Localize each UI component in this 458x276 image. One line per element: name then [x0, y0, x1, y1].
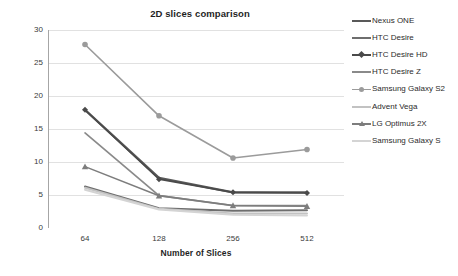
series-samsung-galaxy-s: [85, 190, 307, 216]
legend-swatch-icon: [352, 16, 371, 26]
legend-label: HTC Desire: [372, 34, 414, 42]
y-axis-title: FPS: [0, 95, 1, 110]
chart-container: 2D slices comparison FPS 051015202530 64…: [0, 0, 458, 276]
legend-item[interactable]: Samsung Galaxy S: [352, 132, 458, 149]
legend-label: Advent Vega: [372, 103, 417, 111]
data-point-marker: [304, 147, 310, 153]
legend-swatch-icon: [352, 136, 371, 146]
x-tick-label: 64: [65, 234, 105, 243]
legend-item[interactable]: HTC Desire HD: [352, 46, 458, 63]
legend-item[interactable]: HTC Desire Z: [352, 64, 458, 81]
legend-label: HTC Desire Z: [372, 68, 421, 76]
data-point-marker: [230, 155, 236, 161]
y-tick-label: 30: [21, 25, 43, 34]
legend-marker-icon: [358, 51, 365, 58]
chart-title: 2D slices comparison: [60, 8, 340, 19]
y-tick-label: 5: [21, 190, 43, 199]
legend-swatch-icon: [352, 84, 371, 94]
legend-item[interactable]: Nexus ONE: [352, 12, 458, 29]
series-htc-desire-hd: [82, 107, 310, 196]
legend-marker-icon: [359, 87, 364, 92]
y-tick-label: 20: [21, 91, 43, 100]
legend-item[interactable]: HTC Desire: [352, 29, 458, 46]
y-tick-label: 10: [21, 157, 43, 166]
legend-label: HTC Desire HD: [372, 51, 428, 59]
series-line: [85, 190, 307, 216]
x-axis-title: Number of Slices: [48, 248, 344, 258]
plot-area: [48, 30, 344, 228]
legend-swatch-icon: [352, 50, 371, 60]
x-tick-label: 256: [213, 234, 253, 243]
legend-label: Nexus ONE: [372, 17, 414, 25]
legend-item[interactable]: Samsung Galaxy S2: [352, 81, 458, 98]
x-tick-label: 512: [287, 234, 327, 243]
y-tick-label: 15: [21, 124, 43, 133]
data-point-marker: [82, 42, 88, 48]
series-samsung-galaxy-s2: [82, 42, 310, 161]
data-point-marker: [82, 163, 88, 169]
y-tick-label: 25: [21, 58, 43, 67]
legend-label: Samsung Galaxy S: [372, 137, 440, 145]
legend: Nexus ONEHTC DesireHTC Desire HDHTC Desi…: [352, 12, 458, 150]
data-point-marker: [156, 113, 162, 119]
legend-marker-icon: [359, 121, 365, 126]
legend-swatch-icon: [352, 119, 371, 129]
legend-item[interactable]: Advent Vega: [352, 98, 458, 115]
y-tick-label: 0: [21, 223, 43, 232]
legend-label: LG Optimus 2X: [372, 120, 427, 128]
legend-swatch-icon: [352, 102, 371, 112]
legend-swatch-icon: [352, 33, 371, 43]
legend-item[interactable]: LG Optimus 2X: [352, 115, 458, 132]
data-point-marker: [230, 189, 236, 195]
x-tick-label: 128: [139, 234, 179, 243]
legend-swatch-icon: [352, 67, 371, 77]
plot-svg: [48, 30, 344, 228]
legend-label: Samsung Galaxy S2: [372, 85, 445, 93]
